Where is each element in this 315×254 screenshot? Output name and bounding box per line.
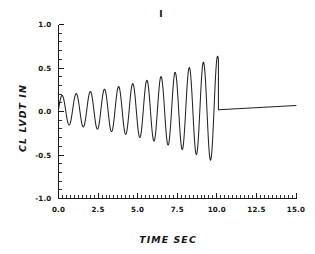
x-tick-label: 12.5 <box>247 205 265 214</box>
chart-figure: I 1.00.50.0-0.5-1.0 0.02.55.07.510.012.5… <box>0 0 315 254</box>
y-tick-label: -1.0 <box>35 194 51 203</box>
y-tick-label: 0.0 <box>38 107 51 116</box>
data-series-line <box>59 56 297 160</box>
y-tick-label-group: 1.00.50.0-0.5-1.0 <box>35 20 51 203</box>
chart-svg: I 1.00.50.0-0.5-1.0 0.02.55.07.510.012.5… <box>0 0 315 254</box>
x-tick-label: 5.0 <box>131 205 144 214</box>
x-tick-label: 0.0 <box>52 205 65 214</box>
x-tick-label: 2.5 <box>91 205 104 214</box>
x-axis-title: TIME SEC <box>139 234 197 245</box>
y-tick-label: -0.5 <box>35 151 51 160</box>
x-tick-label: 7.5 <box>171 205 184 214</box>
y-tick-group <box>59 25 65 199</box>
x-tick-label: 15.0 <box>287 205 305 214</box>
y-tick-label: 0.5 <box>38 64 51 73</box>
y-axis-title: CL LVDT IN <box>17 84 28 152</box>
x-tick-group <box>59 193 297 199</box>
x-tick-label: 10.0 <box>208 205 226 214</box>
x-tick-label-group: 0.02.55.07.510.012.515.0 <box>52 205 305 214</box>
chart-title: I <box>159 9 162 19</box>
y-tick-label: 1.0 <box>38 20 51 29</box>
